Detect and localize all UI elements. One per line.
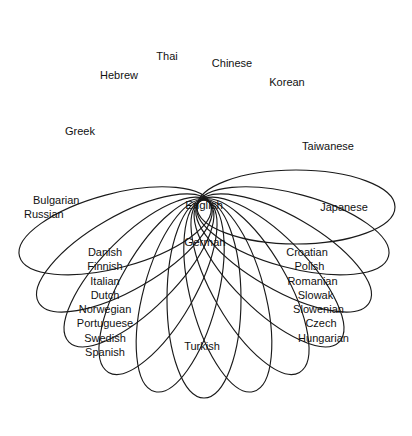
petal-label-taiwanese: Taiwanese <box>302 140 354 154</box>
petal-group-central-eastern-european: Croatian Polish Romanian Slowak Slowenia… <box>272 245 360 345</box>
petal-label-thai: Thai <box>156 50 177 64</box>
list-item: Slowak <box>271 288 360 302</box>
core-label-german: German <box>184 236 226 248</box>
petal-label-chinese: Chinese <box>212 57 252 71</box>
petal-label-korean: Korean <box>269 76 304 90</box>
petal-ellipse-6 <box>167 200 241 398</box>
petal-label-japanese: Japanese <box>320 201 368 215</box>
list-item: Finnish <box>62 259 148 273</box>
list-item: Norwegian <box>62 302 148 316</box>
petal-group-western-european: Danish Finnish Italian Dutch Norwegian P… <box>62 245 148 359</box>
list-item: Romanian <box>265 274 360 288</box>
list-item: Czech <box>282 316 360 330</box>
list-item: Russian <box>24 207 79 221</box>
list-item: Dutch <box>62 288 148 302</box>
petal-label-turkish: Turkish <box>184 340 220 354</box>
list-item: Spanish <box>62 345 148 359</box>
list-item: Slowenian <box>277 302 360 316</box>
list-item: Italian <box>62 274 148 288</box>
petal-label-hebrew: Hebrew <box>100 69 138 83</box>
list-item: Hungarian <box>287 331 360 345</box>
petal-label-greek: Greek <box>65 125 95 139</box>
list-item: Polish <box>259 259 360 273</box>
list-item: Danish <box>62 245 148 259</box>
petal-group-slavic-west: Bulgarian Russian <box>33 193 79 222</box>
list-item: Bulgarian <box>33 193 79 207</box>
core-label-english: English <box>185 199 223 211</box>
list-item: Croatian <box>254 245 360 259</box>
language-rosette-diagram: English German Thai Chinese Korean Hebre… <box>0 0 412 436</box>
list-item: Swedish <box>62 331 148 345</box>
list-item: Portuguese <box>62 316 148 330</box>
